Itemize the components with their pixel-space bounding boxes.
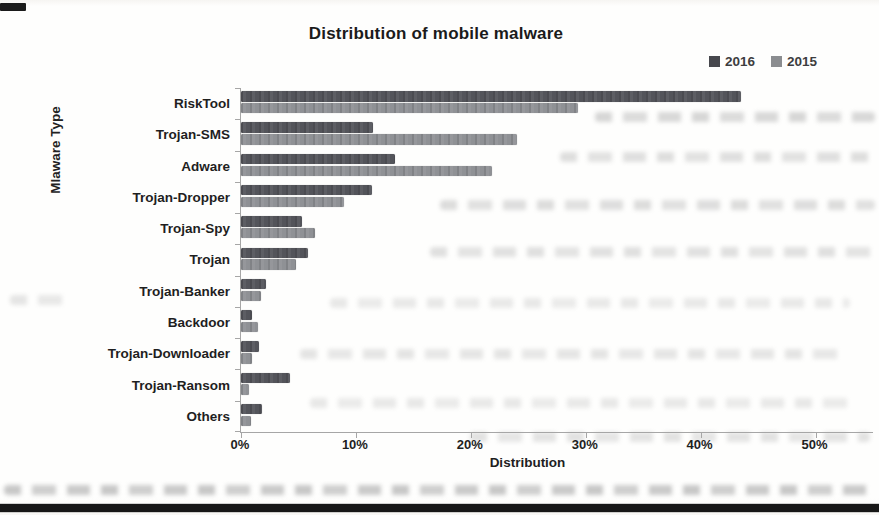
y-axis-tick bbox=[235, 369, 240, 370]
category-label-trojan-banker: Trojan-Banker bbox=[0, 276, 230, 307]
category-label-trojan-dropper: Trojan-Dropper bbox=[0, 182, 230, 213]
bar-2016-trojan bbox=[241, 248, 308, 258]
y-axis-tick bbox=[235, 151, 240, 152]
category-axis-labels: RiskToolTrojan-SMSAdwareTrojan-DropperTr… bbox=[0, 88, 230, 432]
bar-2015-adware bbox=[241, 166, 492, 176]
category-label-trojan: Trojan bbox=[0, 244, 230, 275]
bar-2015-trojan-ransom bbox=[241, 384, 249, 394]
bar-2015-backdoor bbox=[241, 322, 258, 332]
bar-2016-backdoor bbox=[241, 310, 252, 320]
category-label-trojan-ransom: Trojan-Ransom bbox=[0, 369, 230, 400]
category-label-trojan-downloader: Trojan-Downloader bbox=[0, 338, 230, 369]
x-tick-label-10: 10% bbox=[325, 437, 385, 452]
scan-artifact-mark bbox=[0, 3, 26, 11]
x-tick-label-50: 50% bbox=[785, 437, 845, 452]
legend-item-2015: 2015 bbox=[771, 54, 817, 69]
bar-2016-trojan-sms bbox=[241, 122, 373, 132]
x-axis-tick-labels: 0%10%20%30%40%50% bbox=[240, 437, 872, 453]
x-tick-label-30: 30% bbox=[555, 437, 615, 452]
plot-area bbox=[240, 88, 873, 433]
legend-swatch-2015 bbox=[771, 56, 782, 67]
category-label-trojan-sms: Trojan-SMS bbox=[0, 119, 230, 150]
x-axis-title: Distribution bbox=[240, 455, 815, 470]
y-axis-tick bbox=[235, 307, 240, 308]
bleedthrough-text-smudge bbox=[4, 485, 874, 495]
bar-2016-trojan-ransom bbox=[241, 373, 290, 383]
legend-item-2016: 2016 bbox=[709, 54, 755, 69]
x-tick-label-40: 40% bbox=[670, 437, 730, 452]
y-axis-tick bbox=[235, 244, 240, 245]
chart-legend: 2016 2015 bbox=[709, 54, 817, 69]
y-axis-tick bbox=[235, 276, 240, 277]
y-axis-tick bbox=[235, 338, 240, 339]
bar-2016-risktool bbox=[241, 91, 741, 101]
x-tick-label-20: 20% bbox=[440, 437, 500, 452]
bar-2016-trojan-dropper bbox=[241, 185, 372, 195]
category-label-backdoor: Backdoor bbox=[0, 307, 230, 338]
bar-2015-trojan bbox=[241, 259, 296, 269]
bar-2016-trojan-banker bbox=[241, 279, 266, 289]
scanned-book-page: Distribution of mobile malware 2016 2015… bbox=[0, 0, 879, 515]
y-axis-tick bbox=[235, 88, 240, 89]
bar-2015-risktool bbox=[241, 103, 578, 113]
category-label-risktool: RiskTool bbox=[0, 88, 230, 119]
bar-2015-others bbox=[241, 416, 251, 426]
category-label-trojan-spy: Trojan-Spy bbox=[0, 213, 230, 244]
y-axis-tick bbox=[235, 401, 240, 402]
legend-swatch-2016 bbox=[709, 56, 720, 67]
bar-2016-others bbox=[241, 404, 262, 414]
page-bottom-rule bbox=[0, 504, 879, 512]
bar-2015-trojan-sms bbox=[241, 134, 517, 144]
bar-2015-trojan-downloader bbox=[241, 353, 252, 363]
y-axis-tick bbox=[235, 431, 240, 432]
x-tick-label-0: 0% bbox=[210, 437, 270, 452]
bar-2015-trojan-dropper bbox=[241, 197, 344, 207]
bar-2016-adware bbox=[241, 154, 395, 164]
chart-title: Distribution of mobile malware bbox=[16, 24, 856, 44]
legend-label-2015: 2015 bbox=[787, 54, 817, 69]
category-label-adware: Adware bbox=[0, 151, 230, 182]
bar-2016-trojan-downloader bbox=[241, 341, 259, 351]
category-label-others: Others bbox=[0, 401, 230, 432]
y-axis-tick bbox=[235, 119, 240, 120]
bar-2016-trojan-spy bbox=[241, 216, 302, 226]
bar-2015-trojan-banker bbox=[241, 291, 261, 301]
y-axis-tick bbox=[235, 182, 240, 183]
y-axis-tick bbox=[235, 213, 240, 214]
bar-2015-trojan-spy bbox=[241, 228, 315, 238]
legend-label-2016: 2016 bbox=[725, 54, 755, 69]
